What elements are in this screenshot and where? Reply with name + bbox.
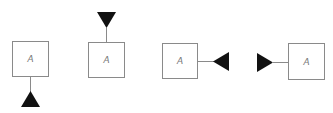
box-1: A xyxy=(12,41,49,77)
connector-line-2 xyxy=(106,28,107,42)
box-2: A xyxy=(88,42,125,78)
box-2-label: A xyxy=(103,55,109,65)
triangle-right-icon xyxy=(257,53,273,72)
box-4: A xyxy=(288,43,325,80)
triangle-down-icon xyxy=(97,12,116,28)
triangle-up-icon xyxy=(21,91,40,107)
box-3-label: A xyxy=(177,56,183,66)
box-3: A xyxy=(162,43,198,79)
connector-line-3 xyxy=(198,61,214,62)
box-4-label: A xyxy=(303,57,309,67)
triangle-left-icon xyxy=(213,52,229,71)
box-1-label: A xyxy=(27,54,33,64)
connector-line-1 xyxy=(30,77,31,92)
connector-line-4 xyxy=(272,62,288,63)
